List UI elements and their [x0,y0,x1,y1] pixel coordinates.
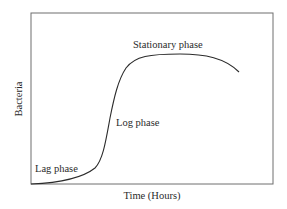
y-axis-label: Bacteria [13,81,24,116]
growth-curve-diagram: Lag phase Log phase Stationary phase Tim… [0,0,287,209]
lag-phase-label: Lag phase [35,163,78,174]
stationary-phase-label: Stationary phase [133,39,203,50]
log-phase-label: Log phase [116,117,160,128]
x-axis-label: Time (Hours) [123,190,181,202]
